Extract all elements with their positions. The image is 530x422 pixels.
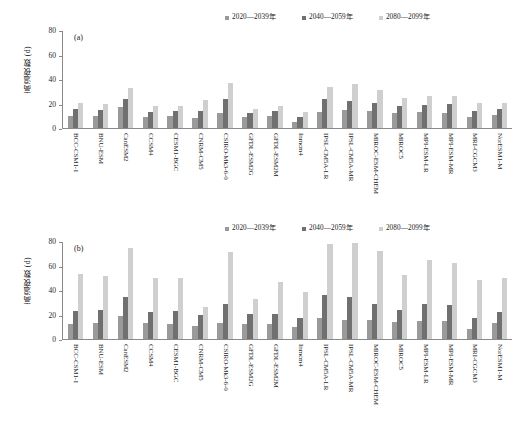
bar-group (263, 31, 288, 128)
legend-item-2040-2059: 2040—2059年 (302, 14, 353, 21)
x-label-cell: MIROC5 (387, 342, 412, 418)
x-label-cell: GFDL-ESM2G (238, 342, 263, 418)
y-tick-label: 0 (52, 125, 56, 133)
y-tick-label: 40 (48, 76, 56, 84)
legend-label-2040-2059: 2040—2059年 (309, 14, 353, 21)
bar-group (188, 31, 213, 128)
y-tick-label: 80 (48, 27, 56, 35)
y-tick-mark (59, 105, 62, 106)
bar-group (63, 242, 88, 339)
y-tick-label: 40 (48, 287, 56, 295)
x-axis-tick-label: MPI-ESM-LR (421, 344, 428, 383)
x-axis-tick-label: CSIRO-Mk3-6-0 (222, 344, 229, 391)
x-axis-tick-label: CNRM-CM5 (197, 133, 204, 170)
x-axis-tick-label: GFDL-ESM2G (247, 133, 254, 176)
legend-item-2080-2099: 2080—2099年 (379, 14, 430, 21)
plot-area-panel-b: 020406080 (62, 242, 512, 340)
legend-panel-b: 2020—2039年 2040—2059年 2080—2099年 (225, 225, 430, 232)
bar-group (312, 242, 337, 339)
x-label-cell: MPI-ESM-LR (412, 342, 437, 418)
x-axis-line-panel-a (62, 128, 512, 129)
bar-group (163, 31, 188, 128)
bar (502, 103, 507, 128)
legend-swatch-2020-2039 (225, 227, 229, 231)
x-label-cell: MIROC5 (387, 131, 412, 207)
bar (103, 276, 108, 339)
x-label-cell: BNU-ESM (88, 131, 113, 207)
x-label-cell: MPI-ESM-MR (437, 342, 462, 418)
x-label-cell: GFDL-ESM2G (238, 131, 263, 207)
bar (78, 274, 83, 339)
x-label-cell: GFDL-ESM2M (263, 342, 288, 418)
legend-item-2040-2059: 2040—2059年 (302, 225, 353, 232)
x-label-cell: CSIRO-Mk3-6-0 (213, 131, 238, 207)
bar (327, 87, 332, 128)
bar-group (63, 31, 88, 128)
x-axis-tick-label: CanESM2 (122, 344, 129, 372)
bar (502, 278, 507, 339)
x-axis-tick-label: NorESM1-M (496, 133, 503, 169)
bar (203, 307, 208, 339)
legend-label-2040-2059: 2040—2059年 (309, 225, 353, 232)
x-axis-tick-label: IPSL-CM5A-MR (346, 133, 353, 181)
y-axis-title-panel-a: 高温夜数 (d) (24, 46, 32, 93)
bar-group (113, 31, 138, 128)
legend-swatch-2080-2099 (379, 16, 383, 20)
x-axis-tick-label: BCC-CSM1-1 (72, 344, 79, 383)
x-label-cell: MPI-ESM-MR (437, 131, 462, 207)
bar-group (287, 242, 312, 339)
x-axis-tick-label: MPI-ESM-MR (446, 344, 453, 385)
x-label-cell: NorESM1-M (487, 131, 512, 207)
bar-group (487, 31, 512, 128)
bar (452, 96, 457, 128)
x-label-cell: IPSL-CM5A-MR (337, 131, 362, 207)
bar-group (287, 31, 312, 128)
bar (452, 263, 457, 339)
bar (153, 278, 158, 339)
x-label-cell: CanESM2 (113, 342, 138, 418)
x-label-cell: IPSL-CM5A-MR (337, 342, 362, 418)
legend-item-2080-2099: 2080—2099年 (379, 225, 430, 232)
bar (128, 88, 133, 128)
bar-group (312, 31, 337, 128)
y-tick-mark (59, 242, 62, 243)
x-axis-tick-label: CanESM2 (122, 133, 129, 161)
y-tick-mark (59, 316, 62, 317)
y-tick-label: 20 (48, 101, 56, 109)
x-label-cell: Inmcm4 (287, 342, 312, 418)
bar-group (188, 242, 213, 339)
panel-b: 2020—2039年 2040—2059年 2080—2099年 高温夜数 (d… (0, 211, 530, 422)
bar-group (238, 31, 263, 128)
legend-label-2080-2099: 2080—2099年 (386, 14, 430, 21)
x-axis-tick-label: MIROC5 (396, 133, 403, 159)
y-tick-label: 60 (48, 263, 56, 271)
bar-group (437, 242, 462, 339)
bar (303, 112, 308, 128)
legend-label-2020-2039: 2020—2039年 (232, 225, 276, 232)
bar-group (213, 242, 238, 339)
x-axis-tick-label: IPSL-CM5A-LR (321, 133, 328, 179)
x-label-cell: CNRM-CM5 (188, 131, 213, 207)
bar (303, 292, 308, 339)
bar (253, 299, 258, 339)
x-label-cell: MIROC-ESM-CHEM (362, 342, 387, 418)
legend-item-2020-2039: 2020—2039年 (225, 225, 276, 232)
bar-group (263, 242, 288, 339)
bar (427, 96, 432, 128)
x-axis-tick-label: MPI-ESM-MR (446, 133, 453, 174)
x-axis-tick-label: MIROC5 (396, 344, 403, 370)
bar (253, 109, 258, 128)
x-label-cell: MRI-CGCM3 (462, 131, 487, 207)
x-axis-tick-label: MRI-CGCM3 (471, 133, 478, 172)
x-label-cell: CCSM4 (138, 342, 163, 418)
bar (78, 103, 83, 128)
legend-item-2020-2039: 2020—2039年 (225, 14, 276, 21)
bar-group (213, 31, 238, 128)
bar-group (387, 31, 412, 128)
bar (278, 106, 283, 128)
bar (203, 100, 208, 128)
x-label-cell: CanESM2 (113, 131, 138, 207)
legend-panel-a: 2020—2039年 2040—2059年 2080—2099年 (225, 14, 430, 21)
x-axis-tick-label: Inmcm4 (296, 344, 303, 367)
x-label-cell: NorESM1-M (487, 342, 512, 418)
